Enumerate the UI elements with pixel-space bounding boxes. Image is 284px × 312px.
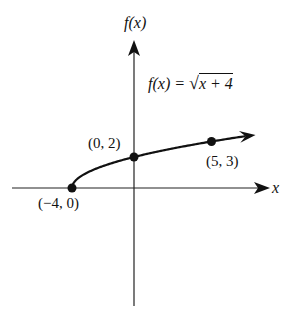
function-radicand: x + 4 [199,73,233,92]
graph-canvas [0,0,284,312]
point-label-5-3: (5, 3) [206,154,239,169]
y-axis-label: f(x) [124,15,146,31]
data-point [68,184,77,193]
data-point [130,153,139,162]
point-label-0-2: (0, 2) [88,136,121,151]
point-label-neg4-0: (−4, 0) [38,196,79,211]
data-point [207,137,216,146]
function-equation: f(x) = √x + 4 [148,74,233,92]
x-axis-label: x [272,180,279,196]
function-lhs: f(x) = [148,75,185,92]
